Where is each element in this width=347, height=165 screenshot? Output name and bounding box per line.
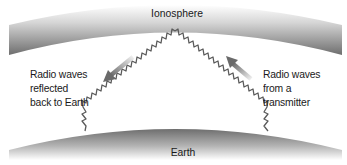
radio-wave-diagram: Ionosphere Earth Radio waves reflected b… xyxy=(0,0,347,165)
reflected-label-line-2: reflected xyxy=(30,81,111,95)
reflected-label-line-1: Radio waves xyxy=(30,67,111,81)
transmitter-label-line-1: Radio waves xyxy=(263,67,344,81)
arrow-up-left-icon xyxy=(226,56,251,79)
reflected-waves-label: Radio waves reflected back to Earth xyxy=(30,67,111,109)
ionosphere-label: Ionosphere xyxy=(137,6,216,20)
transmitter-label-line-3: transmitter xyxy=(263,95,344,109)
transmitter-label-line-2: from a xyxy=(263,81,344,95)
reflected-label-line-3: back to Earth xyxy=(30,95,111,109)
transmitted-wave xyxy=(175,29,268,131)
earth-label: Earth xyxy=(147,145,219,159)
transmitter-waves-label: Radio waves from a transmitter xyxy=(263,67,344,109)
